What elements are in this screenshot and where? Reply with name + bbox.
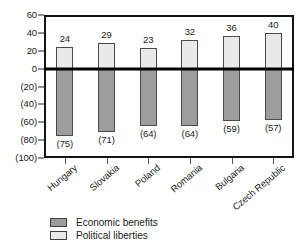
bar-political-liberties (223, 36, 240, 68)
y-tick-label: (40) (21, 99, 38, 109)
y-tick-mark (38, 140, 44, 141)
bar-political-liberties (140, 48, 157, 69)
y-tick-mark (38, 50, 44, 51)
bar-group: 23(64) (140, 15, 157, 158)
legend-label-political: Political liberties (76, 230, 148, 241)
bar-value-label: 24 (60, 34, 70, 44)
y-tick-mark (38, 122, 44, 123)
bar-group: 32(64) (181, 15, 198, 158)
bar-economic-benefits (98, 69, 115, 132)
bar-value-label: 23 (143, 35, 153, 45)
y-axis: 6040200(20)(40)(60)(80)(100) (0, 15, 37, 158)
y-tick-label: 20 (27, 46, 37, 56)
y-tick-mark (38, 104, 44, 105)
bar-group: 36(59) (223, 15, 240, 158)
y-tick-mark (38, 86, 44, 87)
bar-value-label: (64) (140, 129, 157, 139)
bar-group: 40(57) (265, 15, 282, 158)
y-tick-label: 40 (27, 28, 37, 38)
y-tick-label: (80) (21, 135, 38, 145)
zero-baseline (44, 67, 294, 70)
x-axis-category-label: Hungary (45, 162, 79, 193)
y-tick-label: (100) (15, 153, 37, 163)
y-tick-label: (20) (21, 82, 38, 92)
x-axis-category-label: Poland (133, 162, 162, 189)
y-tick-label: 60 (27, 10, 37, 20)
bar-chart: 6040200(20)(40)(60)(80)(100) 24(75)29(71… (0, 0, 301, 244)
bar-political-liberties (265, 33, 282, 69)
bar-political-liberties (56, 47, 73, 68)
y-tick-label: (60) (21, 117, 38, 127)
bar-value-label: (57) (265, 123, 282, 133)
legend-swatch-icon-political (50, 231, 67, 240)
bar-value-label: 29 (101, 30, 111, 40)
bar-value-label: (64) (182, 129, 199, 139)
bar-value-label: 36 (226, 23, 236, 33)
legend-item-economic-benefits: Economic benefits (50, 216, 158, 228)
bars-layer: 24(75)29(71)23(64)32(64)36(59)40(57) (44, 15, 294, 158)
x-axis-category-label: Romania (168, 162, 204, 194)
bar-economic-benefits (181, 69, 198, 126)
bar-economic-benefits (265, 69, 282, 120)
bar-value-label: 40 (268, 20, 278, 30)
bar-political-liberties (181, 40, 198, 69)
x-axis-labels: HungarySlovakiaPolandRomaniaBulgariaCzec… (44, 158, 301, 208)
bar-political-liberties (98, 43, 115, 69)
bar-value-label: (59) (223, 124, 240, 134)
x-axis-category-label: Bulgaria (212, 162, 245, 192)
bar-economic-benefits (140, 69, 157, 126)
bar-group: 29(71) (98, 15, 115, 158)
x-axis-category-label: Slovakia (87, 162, 121, 193)
bar-economic-benefits (223, 69, 240, 122)
legend-swatch-icon-economic (50, 218, 67, 227)
bar-value-label: 32 (185, 27, 195, 37)
legend-item-political-liberties: Political liberties (50, 229, 158, 241)
bar-value-label: (71) (98, 135, 115, 145)
legend-label-economic: Economic benefits (76, 217, 158, 228)
bar-value-label: (75) (57, 139, 74, 149)
y-tick-mark (38, 15, 44, 16)
y-tick-label: 0 (32, 64, 37, 74)
bar-group: 24(75) (56, 15, 73, 158)
bar-economic-benefits (56, 69, 73, 136)
chart-legend: Economic benefits Political liberties (50, 216, 158, 242)
y-tick-mark (38, 158, 44, 159)
y-tick-mark (38, 32, 44, 33)
